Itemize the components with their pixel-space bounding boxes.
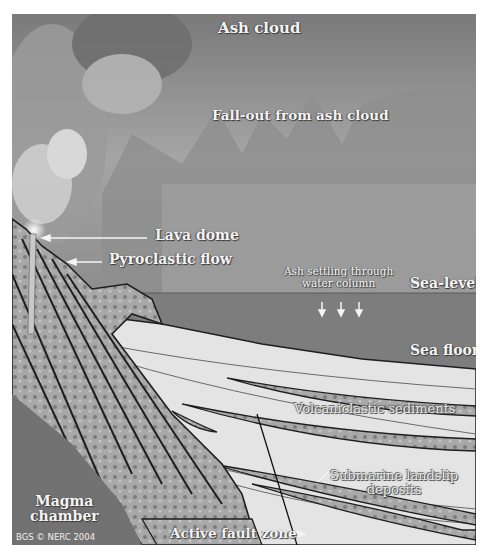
volcano-diagram: Ash cloud Fall-out from ash cloud Lava d…: [12, 14, 476, 545]
label-ash-settling-line2: water column: [284, 278, 393, 290]
copyright-credit: BGS © NERC 2004: [16, 532, 95, 542]
label-lava-dome: Lava dome: [155, 228, 239, 243]
label-landslip-line2: deposits: [330, 483, 458, 497]
diagram-artwork: [12, 14, 476, 545]
label-landslip: Submarine landslip deposits: [330, 469, 458, 498]
label-ash-cloud: Ash cloud: [218, 20, 300, 37]
label-magma-chamber: Magma chamber: [30, 494, 99, 525]
label-pyroclastic-flow: Pyroclastic flow: [109, 252, 232, 267]
label-ash-settling: Ash settling through water column: [284, 266, 393, 289]
label-sea-level: Sea-level: [410, 276, 476, 291]
label-fallout: Fall-out from ash cloud: [212, 108, 389, 123]
label-sea-floor: Sea floor: [410, 343, 476, 358]
label-volcaniclastic: Volcaniclastic sediments: [294, 402, 456, 416]
label-magma-line2: chamber: [30, 509, 99, 524]
label-ash-settling-line1: Ash settling through: [284, 266, 393, 278]
label-magma-line1: Magma: [30, 494, 99, 509]
label-fault-zone: Active fault zone: [170, 526, 297, 541]
